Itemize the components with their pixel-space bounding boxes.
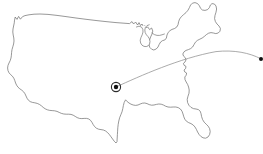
us-route-map-figure [0,0,263,154]
destination-marker-dot[interactable] [259,57,263,61]
map-canvas[interactable] [0,0,263,154]
origin-marker-core [114,85,118,89]
